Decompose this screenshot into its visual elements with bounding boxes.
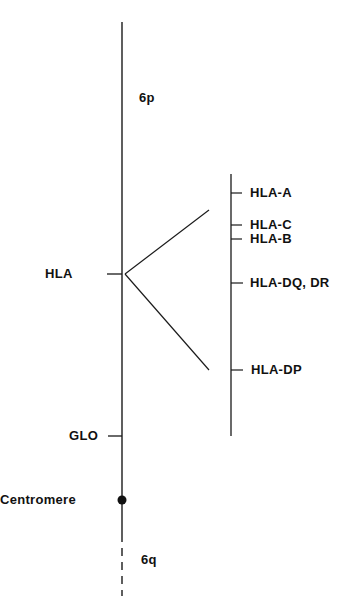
gene-label-hla-b: HLA-B (250, 231, 292, 246)
expansion-line-upper (125, 210, 209, 274)
centromere-dot (118, 496, 127, 505)
gene-label-hla-dq-dr: HLA-DQ, DR (250, 275, 330, 290)
diagram-canvas (0, 0, 349, 608)
glo-locus-label: GLO (69, 428, 98, 443)
arm-p-label: 6p (139, 90, 155, 105)
hla-locus-label: HLA (45, 266, 95, 281)
gene-label-hla-dp: HLA-DP (251, 362, 302, 377)
arm-q-label: 6q (141, 552, 157, 567)
gene-label-hla-c: HLA-C (250, 217, 292, 232)
expansion-line-lower (125, 274, 209, 370)
chromosome-6-diagram: 6p 6q HLA GLO Centromere HLA-A HLA-C HLA… (0, 0, 349, 608)
gene-label-hla-a: HLA-A (250, 185, 292, 200)
centromere-label: Centromere (0, 492, 76, 507)
